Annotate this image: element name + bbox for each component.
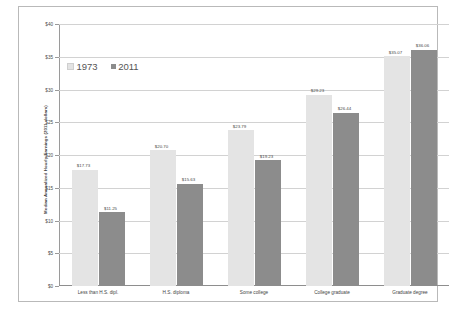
y-axis-tick [55, 221, 59, 222]
bar-1973-1[interactable] [72, 170, 98, 286]
bar-2011-4[interactable] [333, 113, 359, 286]
bar-value-label: $15.63 [176, 177, 202, 182]
y-axis-tick-label: $15 [45, 185, 53, 190]
bar-value-label: $17.73 [71, 163, 97, 168]
y-axis-tick [55, 90, 59, 91]
bar-value-label: $19.23 [254, 154, 280, 159]
y-axis-tick-label: $40 [45, 22, 53, 27]
bar-group: $29.23$26.44 [306, 24, 359, 286]
y-axis-tick [55, 253, 59, 254]
bar-group: $23.79$19.23 [228, 24, 281, 286]
y-axis-tick-label: $10 [45, 218, 53, 223]
bar-value-label: $36.06 [410, 43, 436, 48]
y-axis-tick-label: $30 [45, 87, 53, 92]
bar-value-label: $26.44 [332, 106, 358, 111]
y-axis-tick-label: $25 [45, 120, 53, 125]
bar-value-label: $23.79 [227, 124, 253, 129]
bar-group: $20.70$15.63 [150, 24, 203, 286]
y-axis-tick-label: $5 [48, 251, 53, 256]
y-axis-tick-label: $0 [48, 284, 53, 289]
bar-value-label: $35.07 [383, 50, 409, 55]
y-axis-tick [55, 155, 59, 156]
chart-frame: Median Annualized Hourly Earnings (2011 … [18, 6, 438, 302]
y-axis-tick [55, 24, 59, 25]
bar-1973-2[interactable] [150, 150, 176, 286]
bar-1973-5[interactable] [384, 56, 410, 286]
category-label: Graduate degree [364, 290, 453, 295]
bar-2011-1[interactable] [99, 212, 125, 286]
y-axis-tick [55, 122, 59, 123]
bar-value-label: $29.23 [305, 88, 331, 93]
y-axis-tick-label: $20 [45, 153, 53, 158]
bar-2011-2[interactable] [177, 184, 203, 286]
y-axis-title: Median Annualized Hourly Earnings (2011 … [43, 80, 48, 240]
bar-value-label: $11.25 [98, 206, 124, 211]
bar-1973-3[interactable] [228, 130, 254, 286]
bar-2011-3[interactable] [255, 160, 281, 286]
y-axis-tick [55, 57, 59, 58]
bar-value-label: $20.70 [149, 144, 175, 149]
y-axis-tick-label: $35 [45, 54, 53, 59]
y-axis-tick [55, 188, 59, 189]
bar-group: $35.07$36.06 [384, 24, 437, 286]
y-axis-tick [55, 286, 59, 287]
bar-1973-4[interactable] [306, 95, 332, 286]
bar-2011-5[interactable] [411, 50, 437, 286]
plot-area: $0$5$10$15$20$25$30$35$40 $17.73$11.25$2… [59, 24, 449, 286]
bar-group: $17.73$11.25 [72, 24, 125, 286]
